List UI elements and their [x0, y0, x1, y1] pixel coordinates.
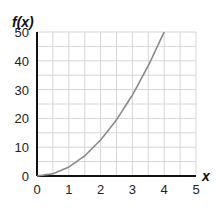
y-axis-label: f(x): [12, 14, 34, 30]
svg-text:0: 0: [22, 169, 29, 184]
svg-text:0: 0: [33, 182, 40, 197]
svg-text:10: 10: [15, 140, 29, 155]
svg-text:1: 1: [65, 182, 72, 197]
svg-text:4: 4: [161, 182, 168, 197]
svg-text:3: 3: [129, 182, 136, 197]
svg-text:30: 30: [15, 83, 29, 98]
function-chart: 01020304050 012345 f(x) x: [0, 0, 217, 209]
svg-text:20: 20: [15, 111, 29, 126]
svg-text:5: 5: [192, 182, 199, 197]
x-axis-label: x: [201, 168, 211, 184]
y-tick-labels: 01020304050: [15, 25, 29, 184]
grid-lines: [37, 32, 196, 176]
svg-text:40: 40: [15, 54, 29, 69]
svg-text:2: 2: [97, 182, 104, 197]
x-tick-labels: 012345: [33, 182, 199, 197]
